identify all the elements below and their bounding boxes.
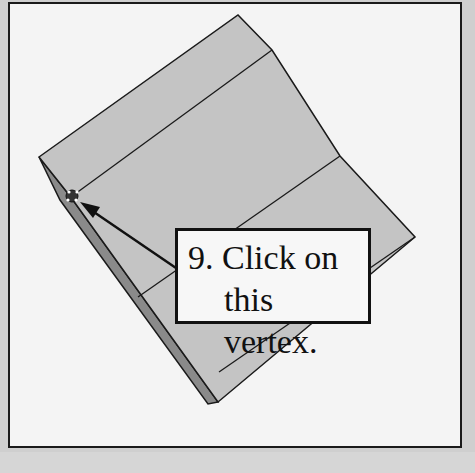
callout-line-2: this vertex.	[188, 279, 368, 363]
instruction-callout: 9. Click on this vertex.	[175, 228, 371, 324]
vertex-marker-icon[interactable]	[66, 190, 79, 202]
callout-line-1: 9. Click on	[188, 239, 338, 276]
